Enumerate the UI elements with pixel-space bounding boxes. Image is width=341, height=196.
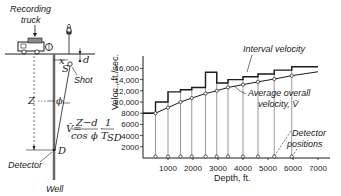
recording-truck-label: Recording [10,4,51,14]
x-ticks: 1000200030004000500060007000 [159,158,327,173]
formula-num1: Z−d [75,117,98,128]
detector-pointer-2 [293,149,297,155]
well-label: Well [46,184,64,194]
y-tick-label: 16,000 [115,64,140,73]
x-tick-label: 1000 [159,164,177,173]
detector-point [53,149,56,152]
formula-den1: cos ϕ [71,130,98,141]
detector-marker [204,155,207,158]
interval-velocity-pointer [247,55,252,72]
arrow-icon [33,146,36,150]
x-axis-title: Depth, ft. [214,173,251,183]
recording-truck-label-2: truck [21,15,41,25]
y-tick-label: 8000 [121,109,139,118]
average-velocity-marker [215,89,218,92]
average-velocity-marker [273,77,276,80]
average-velocity-marker [204,92,207,95]
detector-marker [226,155,229,158]
ray-path [55,66,70,150]
figure: Recording truck d Well [0,0,341,196]
velocity-chart: Veloc., ft./sec. Depth, ft. 200040006000… [110,44,330,183]
average-velocity-marker [256,80,259,83]
arrow-icon [79,59,82,62]
detector-marker [166,155,169,158]
average-velocity-pointer [234,86,246,94]
detector-marker [273,155,276,158]
average-velocity-marker [290,74,293,77]
average-velocity-label: Average overall [247,88,311,98]
Z-label: Z [27,95,36,106]
detector-positions-label-2: positions [286,139,323,149]
y-tick-label: 12,000 [115,87,140,96]
y-tick-label: 14,000 [115,76,140,85]
detector-marker [290,155,293,158]
average-velocity-marker [166,106,169,109]
x-tick-label: 7000 [309,164,327,173]
truck-pointer-arrow-icon [33,33,37,37]
shot-pointer [72,67,77,75]
detector-marker [179,155,182,158]
detector-label: Detector [8,160,43,170]
y-tick-label: 4000 [121,132,139,141]
phi-label: ϕ [56,95,63,106]
detector-marker [154,155,157,158]
detector-marker [256,155,259,158]
detector-marker [241,155,244,158]
x-tick-label: 4000 [234,164,252,173]
average-velocity-marker [179,100,182,103]
x-tick-label: 3000 [209,164,227,173]
D-label: D [57,145,66,156]
well-schematic: Recording truck d Well [5,4,122,194]
detector-positions-label: Detector [292,128,327,138]
y-tick-label: 10,000 [115,98,140,107]
detector-lines [156,67,292,158]
shot-plume-icon [67,24,72,54]
formula-den2-sub: SD [107,132,122,143]
average-velocity-label-2: velocity, V̄ [258,99,299,109]
x-tick-label: 2000 [184,164,202,173]
x-tick-label: 5000 [259,164,277,173]
detector-pointer [40,152,52,162]
velocity-formula: V̄= Z−d cos ϕ · 1 T SD [66,117,122,143]
d-label: d [83,54,89,65]
average-velocity-marker [154,112,157,115]
S-label: S [62,63,69,74]
average-velocity-marker [190,96,193,99]
y-tick-label: 2000 [121,143,139,152]
detector-marker [215,155,218,158]
x-tick-label: 6000 [284,164,302,173]
average-velocity-marker [226,86,229,89]
average-velocity-marker [241,83,244,86]
truck-icon [18,38,53,54]
formula-num2: 1 [105,117,111,128]
y-tick-label: 6000 [121,120,139,129]
detector-marker [190,155,193,158]
interval-velocity-label: Interval velocity [243,44,306,54]
shot-label: Shot [74,75,93,85]
